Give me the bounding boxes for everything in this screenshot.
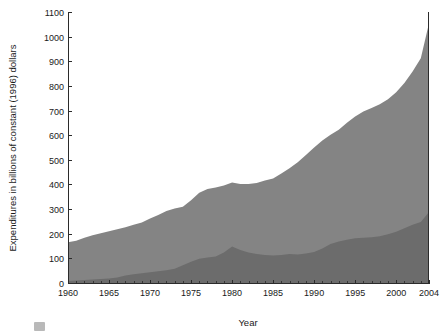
y-tick-label: 800 (49, 82, 64, 92)
y-tick-label: 200 (49, 230, 64, 240)
x-tick-label: 1975 (181, 288, 201, 298)
x-tick-label: 1960 (58, 288, 78, 298)
page-corner-mark (34, 322, 45, 331)
y-tick-label: 100 (49, 254, 64, 264)
x-tick-label: 1990 (304, 288, 324, 298)
x-axis-title: Year (238, 317, 257, 328)
y-tick-label: 1100 (45, 8, 64, 18)
y-axis-title: Expenditures in billions of constant (19… (7, 44, 18, 251)
y-tick-label: 600 (49, 131, 64, 141)
y-tick-label: 500 (49, 156, 64, 166)
x-tick-label: 2004 (419, 288, 439, 298)
x-tick-label: 2000 (386, 288, 406, 298)
x-tick-label: 1970 (140, 288, 160, 298)
x-tick-label: 1995 (345, 288, 365, 298)
x-tick-label: 1965 (99, 288, 119, 298)
y-tick-label: 700 (49, 107, 64, 117)
x-tick-label: 1980 (222, 288, 242, 298)
y-tick-label: 400 (49, 180, 64, 190)
x-axis-tick-labels: 1960196519701975198019851990199520002004 (58, 288, 439, 298)
y-tick-label: 300 (49, 205, 64, 215)
plot-area (68, 23, 429, 283)
x-tick-label: 1985 (263, 288, 283, 298)
y-tick-label: 1000 (44, 33, 64, 43)
area-chart: 010020030040050060070080090010001100 196… (0, 0, 447, 336)
y-axis-tick-labels: 010020030040050060070080090010001100 (44, 8, 64, 289)
chart-figure: 010020030040050060070080090010001100 196… (0, 0, 447, 336)
y-tick-label: 900 (49, 57, 64, 67)
